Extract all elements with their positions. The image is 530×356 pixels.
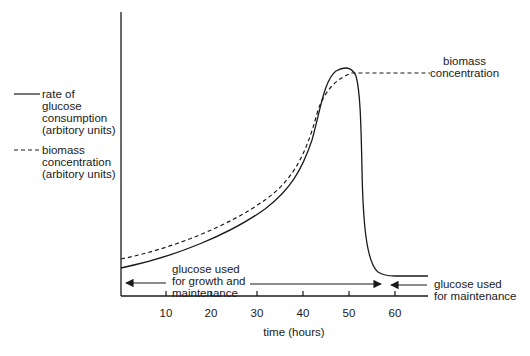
legend-dashed-label: biomass concentration (arbitory units) bbox=[42, 144, 116, 180]
legend-solid-line-3: consumption bbox=[42, 112, 116, 124]
maintenance-annotation-line-2: for maintenance bbox=[434, 290, 516, 302]
tick-label-40: 40 bbox=[297, 307, 310, 319]
tick-label-10: 10 bbox=[160, 307, 173, 319]
growth-annotation-line-1: glucose used bbox=[172, 263, 246, 275]
legend-solid-line-2: glucose bbox=[42, 100, 116, 112]
tick-label-50: 50 bbox=[343, 307, 356, 319]
growth-annotation-line-2: for growth and bbox=[172, 275, 246, 287]
legend-dashed-line-3: (arbitory units) bbox=[42, 168, 116, 180]
legend-solid-line-1: rate of bbox=[42, 88, 116, 100]
tick-label-30: 30 bbox=[251, 307, 264, 319]
growth-annotation: glucose used for growth and maintenance bbox=[172, 263, 246, 299]
biomass-annotation-line-2: concentration bbox=[430, 67, 499, 79]
legend-solid-label: rate of glucose consumption (arbitory un… bbox=[42, 88, 116, 136]
maintenance-annotation: glucose used for maintenance bbox=[434, 278, 516, 302]
biomass-annotation: biomass concentration bbox=[430, 55, 499, 79]
biomass-annotation-line-1: biomass bbox=[430, 55, 499, 67]
x-axis-label: time (hours) bbox=[263, 326, 324, 338]
tick-label-20: 20 bbox=[205, 307, 218, 319]
legend-dashed-line-2: concentration bbox=[42, 156, 116, 168]
maintenance-annotation-line-1: glucose used bbox=[434, 278, 516, 290]
glucose-consumption-line bbox=[121, 68, 428, 276]
legend-solid-line-4: (arbitory units) bbox=[42, 124, 116, 136]
legend-dashed-line-1: biomass bbox=[42, 144, 116, 156]
biomass-concentration-line bbox=[121, 73, 430, 259]
growth-annotation-line-3: maintenance bbox=[172, 287, 246, 299]
tick-label-60: 60 bbox=[389, 307, 402, 319]
